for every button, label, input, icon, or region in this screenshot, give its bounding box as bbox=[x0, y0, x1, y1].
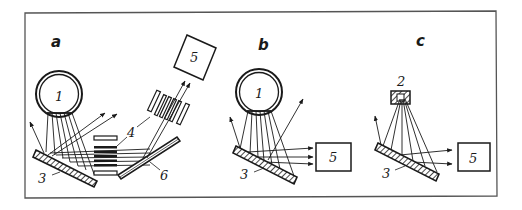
detector-a: 5 bbox=[174, 35, 216, 80]
xray-tube-source-b: 1 bbox=[236, 69, 282, 115]
panel-b: b 1 3 5 bbox=[230, 36, 351, 184]
label-detector-a: 5 bbox=[190, 50, 198, 65]
detector-c: 5 bbox=[458, 143, 490, 171]
panel-label-b: b bbox=[258, 36, 269, 54]
crystal-b: 3 bbox=[233, 146, 297, 184]
label-analyzer: 6 bbox=[160, 168, 168, 183]
panel-c: c 2 3 5 bbox=[375, 32, 490, 181]
schematic-diagram: a 1 bbox=[0, 0, 522, 210]
label-crystal-b: 3 bbox=[240, 167, 248, 182]
label-source-c: 2 bbox=[396, 74, 405, 89]
label-crystal-a: 3 bbox=[38, 171, 46, 186]
panel-label-c: c bbox=[416, 32, 425, 50]
label-collimator: 4 bbox=[126, 125, 135, 140]
panel-a: a 1 bbox=[30, 33, 216, 187]
detector-b: 5 bbox=[316, 143, 351, 171]
collimator-plates bbox=[94, 136, 117, 175]
label-detector-c: 5 bbox=[469, 151, 477, 166]
analyzer-crystal: 6 bbox=[118, 137, 180, 183]
crystal-c: 3 bbox=[375, 143, 439, 181]
xray-tube-source: 1 bbox=[36, 71, 82, 117]
label-detector-b: 5 bbox=[329, 150, 337, 165]
label-source-b: 1 bbox=[255, 86, 263, 101]
panel-label-a: a bbox=[51, 33, 61, 51]
diffracted-beams-c bbox=[375, 116, 452, 164]
label-source-a: 1 bbox=[55, 89, 63, 104]
label-crystal-c: 3 bbox=[382, 166, 390, 181]
